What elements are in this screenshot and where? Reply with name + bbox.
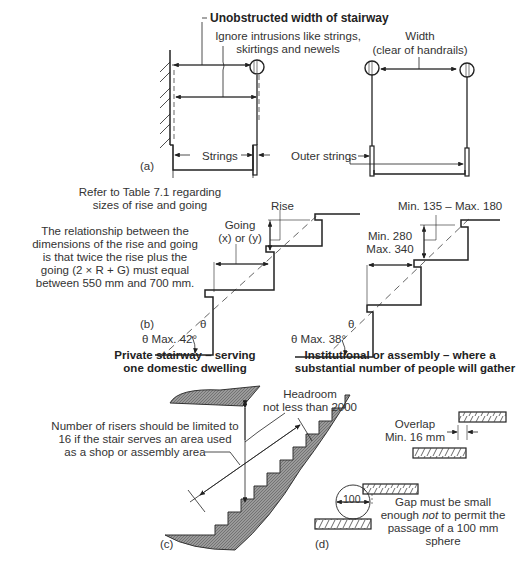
gap-note-2: enough not to permit the (370, 509, 516, 522)
rise-label: Rise (271, 200, 294, 213)
private-caption-1: Private stairway – serving (100, 349, 270, 362)
panel-c-tag: (c) (160, 538, 173, 551)
risers-note-3: as a shop or assembly area (60, 446, 210, 459)
overlap-label-2: Min. 16 mm (380, 431, 450, 444)
inst-caption-1: Institutional or assembly – where a (300, 349, 500, 362)
headroom-label-2: not less than 2000 (255, 401, 365, 414)
inst-max-angle: θ Max. 38° (291, 333, 346, 346)
relation-note-4: going (2 × R + G) must equal (20, 264, 210, 277)
private-max-angle: θ Max. 42° (142, 333, 197, 346)
strings-label: Strings (202, 150, 238, 163)
sphere-diameter: 100 (343, 493, 361, 506)
refer-note-1: Refer to Table 7.1 regarding (70, 186, 230, 199)
outer-strings-label: Outer strings (291, 150, 357, 163)
panel-a-right (350, 57, 474, 176)
relation-note-2: dimensions of the rise and going (20, 238, 210, 251)
panel-b-tag: (b) (140, 318, 154, 331)
headroom-label-1: Headroom (270, 388, 350, 401)
relation-note-3: is that twice the rise plus the (20, 251, 210, 264)
refer-note-2: sizes of rise and going (70, 199, 230, 212)
inst-going-2: Max. 340 (360, 243, 420, 256)
gap-note-2-pre: enough (381, 509, 423, 521)
gap-note-2-emphasis: not (422, 509, 438, 521)
width-label-2: (clear of handrails) (360, 44, 480, 57)
gap-note-3: passage of a 100 mm (378, 522, 508, 535)
theta-private: θ (200, 318, 206, 331)
panel-a-title: Unobstructed width of stairway (210, 12, 389, 25)
panel-a-note-1: Ignore intrusions like strings, (208, 30, 368, 43)
relation-note-1: The relationship between the (20, 225, 210, 238)
panel-d-tag: (d) (315, 538, 329, 551)
width-label-1: Width (370, 30, 470, 43)
theta-inst: θ (348, 318, 354, 331)
risers-note-1: Number of risers should be limited to (45, 420, 245, 433)
risers-note-2: 16 if the stair serves an area used (45, 433, 245, 446)
going-label-2: (x) or (y) (205, 232, 275, 245)
gap-note-2-post: to permit the (438, 509, 505, 521)
panel-a-note-2: skirtings and newels (208, 43, 368, 56)
inst-going-1: Min. 280 (360, 230, 420, 243)
relation-note-5: between 550 mm and 700 mm. (20, 277, 210, 290)
gap-note-1: Gap must be small (378, 496, 508, 509)
panel-a-tag: (a) (140, 160, 154, 173)
inst-caption-2: substantial number of people will gather (290, 362, 520, 375)
overlap-label-1: Overlap (385, 418, 445, 431)
private-caption-2: one domestic dwelling (100, 362, 270, 375)
inst-rise-label: Min. 135 – Max. 180 (398, 200, 502, 213)
going-label-1: Going (210, 219, 270, 232)
gap-note-4: sphere (408, 535, 478, 548)
